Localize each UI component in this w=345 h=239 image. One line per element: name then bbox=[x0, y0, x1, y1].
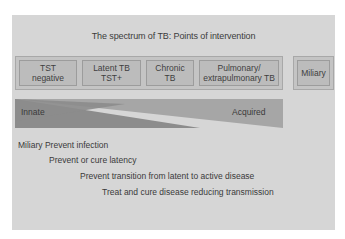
diagram-panel: The spectrum of TB: Points of interventi… bbox=[12, 15, 335, 230]
intervention-2: Prevent or cure latency bbox=[49, 155, 136, 165]
stage-miliary: Miliary bbox=[297, 60, 330, 86]
innate-label: Innate bbox=[21, 107, 45, 117]
acquired-label: Acquired bbox=[232, 107, 266, 117]
intervention-3: Prevent transition from latent to active… bbox=[80, 171, 254, 181]
stage-line2: negative bbox=[32, 73, 64, 83]
intervention-1: Miliary Prevent infection bbox=[18, 140, 108, 150]
stage-chronic-tb: Chronic TB bbox=[146, 60, 194, 86]
stage-row: TST negative Latent TB TST+ Chronic TB P… bbox=[15, 56, 283, 90]
diagram-title: The spectrum of TB: Points of interventi… bbox=[12, 31, 335, 41]
stage-line1: Pulmonary/ bbox=[218, 63, 261, 73]
stage-pulmonary-tb: Pulmonary/ extrapulmonary TB bbox=[199, 60, 279, 86]
miliary-label: Miliary bbox=[301, 68, 326, 78]
stage-line2: TST+ bbox=[101, 73, 122, 83]
stage-latent-tb: Latent TB TST+ bbox=[82, 60, 141, 86]
stage-line2: extrapulmonary TB bbox=[203, 73, 275, 83]
stage-line1: TST bbox=[40, 63, 56, 73]
miliary-group: Miliary bbox=[293, 56, 334, 90]
stage-line2: TB bbox=[165, 73, 176, 83]
stage-line1: Latent TB bbox=[93, 63, 130, 73]
intervention-4: Treat and cure disease reducing transmis… bbox=[102, 187, 274, 197]
stage-tst-negative: TST negative bbox=[19, 60, 77, 86]
stage-line1: Chronic bbox=[155, 63, 184, 73]
